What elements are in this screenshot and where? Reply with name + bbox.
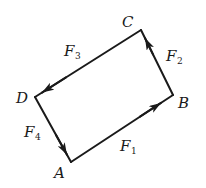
svg-text:3: 3 bbox=[75, 51, 81, 61]
force-diagram: A B C D F 1 F 2 F 3 F 4 bbox=[0, 0, 206, 188]
force-label-f4: F 4 bbox=[23, 123, 41, 142]
svg-text:F: F bbox=[119, 137, 131, 155]
force-label-f1: F 1 bbox=[119, 137, 137, 156]
svg-text:2: 2 bbox=[177, 56, 183, 66]
arrow-icon bbox=[56, 135, 67, 155]
force-label-f2: F 2 bbox=[165, 47, 183, 66]
vertex-label-a: A bbox=[52, 164, 65, 182]
arrow-icon bbox=[145, 38, 153, 54]
vertex-label-b: B bbox=[177, 94, 189, 112]
svg-text:F: F bbox=[23, 123, 35, 141]
svg-text:1: 1 bbox=[131, 146, 137, 156]
vector-f3 bbox=[35, 30, 141, 97]
svg-text:F: F bbox=[165, 47, 177, 65]
force-label-f3: F 3 bbox=[63, 42, 81, 61]
vertex-label-d: D bbox=[15, 89, 28, 107]
vertex-label-c: C bbox=[122, 13, 134, 31]
svg-text:F: F bbox=[63, 42, 75, 60]
svg-text:4: 4 bbox=[35, 132, 41, 142]
diagram-svg: A B C D F 1 F 2 F 3 F 4 bbox=[0, 0, 206, 188]
arrow-icon bbox=[140, 103, 161, 117]
arrow-icon bbox=[42, 77, 66, 92]
vector-f4 bbox=[35, 97, 71, 162]
